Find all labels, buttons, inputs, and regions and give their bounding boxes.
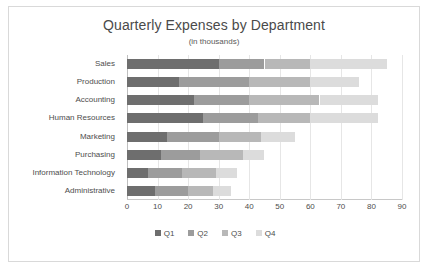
bar-segment-q2[interactable] [148, 168, 182, 178]
legend-label: Q4 [265, 229, 276, 238]
bar-segment-q1[interactable] [127, 113, 203, 123]
bar-segment-q3[interactable] [188, 186, 212, 196]
bar-segment-q1[interactable] [127, 95, 194, 105]
category-label: Production [9, 77, 115, 86]
category-label: Human Resources [9, 113, 115, 122]
value-axis-tick: 60 [306, 202, 315, 211]
bar-segment-q3[interactable] [200, 150, 243, 160]
bar-segment-q2[interactable] [167, 132, 219, 142]
bar-segment-q2[interactable] [155, 186, 189, 196]
bar-row[interactable] [127, 168, 402, 178]
chart-card: Quarterly Expenses by Department (in tho… [8, 6, 420, 262]
category-label: Sales [9, 59, 115, 68]
legend-swatch-icon [155, 230, 161, 236]
value-axis-tick: 50 [275, 202, 284, 211]
plot-wrapper: SalesProductionAccountingHuman Resources… [9, 55, 421, 220]
bar-row[interactable] [127, 59, 402, 69]
bar-segment-q2[interactable] [194, 95, 249, 105]
bar-segment-q4[interactable] [310, 113, 377, 123]
category-label: Purchasing [9, 150, 115, 159]
value-axis-tick: 30 [214, 202, 223, 211]
legend-item-q2[interactable]: Q2 [188, 229, 208, 238]
bar-segment-q3[interactable] [258, 113, 310, 123]
bar-segment-q1[interactable] [127, 132, 167, 142]
value-axis-tick: 40 [245, 202, 254, 211]
category-axis-line [127, 199, 402, 200]
legend-item-q4[interactable]: Q4 [256, 229, 276, 238]
bar-segment-q1[interactable] [127, 168, 148, 178]
bar-segment-q3[interactable] [265, 59, 311, 69]
bar-row[interactable] [127, 95, 402, 105]
bar-segment-q3[interactable] [249, 95, 319, 105]
bar-segment-q3[interactable] [182, 168, 216, 178]
plot-area [127, 55, 402, 200]
gridline [402, 55, 403, 200]
bar-segment-q4[interactable] [216, 168, 237, 178]
value-axis-tick: 10 [153, 202, 162, 211]
bar-row[interactable] [127, 132, 402, 142]
value-axis-tick: 20 [184, 202, 193, 211]
bar-segment-q4[interactable] [261, 132, 295, 142]
bar-segment-q4[interactable] [310, 77, 359, 87]
value-axis-tick: 70 [336, 202, 345, 211]
bar-segment-q4[interactable] [243, 150, 264, 160]
legend-label: Q3 [231, 229, 242, 238]
bar-segment-q1[interactable] [127, 59, 219, 69]
value-axis-tick: 80 [367, 202, 376, 211]
bar-segment-q4[interactable] [310, 59, 386, 69]
legend-label: Q1 [164, 229, 175, 238]
bar-segment-q2[interactable] [219, 59, 265, 69]
category-label: Information Technology [9, 168, 115, 177]
legend-swatch-icon [188, 230, 194, 236]
bar-segment-q4[interactable] [213, 186, 231, 196]
bar-row[interactable] [127, 186, 402, 196]
chart-subtitle: (in thousands) [9, 37, 419, 46]
bar-segment-q1[interactable] [127, 186, 155, 196]
bar-segment-q3[interactable] [219, 132, 262, 142]
bar-segment-q4[interactable] [320, 95, 378, 105]
category-label: Accounting [9, 95, 115, 104]
page-title: Quarterly Expenses by Department [9, 17, 419, 33]
legend-item-q1[interactable]: Q1 [155, 229, 175, 238]
chart-legend: Q1Q2Q3Q4 [9, 225, 421, 241]
value-axis-tick: 90 [398, 202, 407, 211]
bar-segment-q1[interactable] [127, 150, 161, 160]
bar-segment-q2[interactable] [203, 113, 258, 123]
value-axis-labels: 0102030405060708090 [127, 202, 402, 216]
value-axis-tick: 0 [125, 202, 129, 211]
bar-row[interactable] [127, 77, 402, 87]
bar-segment-q2[interactable] [161, 150, 201, 160]
category-label: Administrative [9, 186, 115, 195]
category-label: Marketing [9, 132, 115, 141]
category-axis: SalesProductionAccountingHuman Resources… [9, 55, 119, 200]
legend-swatch-icon [256, 230, 262, 236]
bar-segment-q2[interactable] [179, 77, 249, 87]
bar-segment-q3[interactable] [249, 77, 310, 87]
bar-row[interactable] [127, 150, 402, 160]
bar-row[interactable] [127, 113, 402, 123]
legend-label: Q2 [197, 229, 208, 238]
legend-item-q3[interactable]: Q3 [222, 229, 242, 238]
bar-segment-q1[interactable] [127, 77, 179, 87]
legend-swatch-icon [222, 230, 228, 236]
